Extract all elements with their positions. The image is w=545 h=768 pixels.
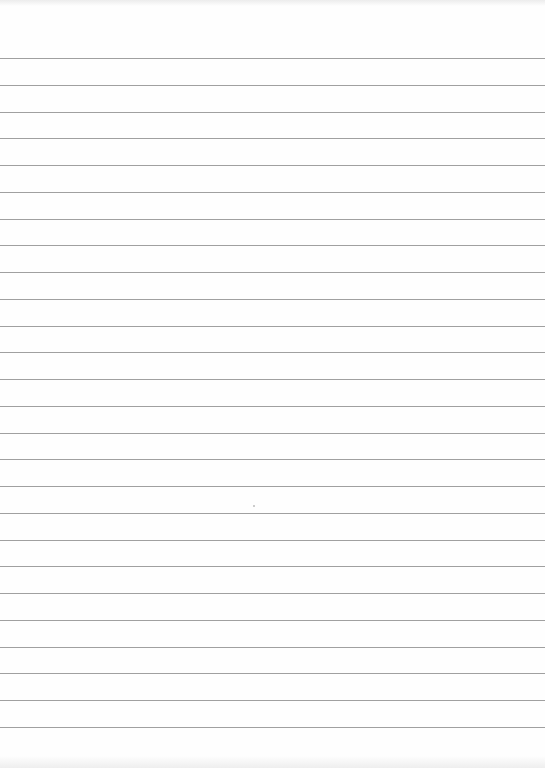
- ruled-line: [0, 406, 545, 407]
- ruled-line: [0, 379, 545, 380]
- paper-bottom-edge: [0, 756, 545, 768]
- ruled-line: [0, 138, 545, 139]
- ruled-line: [0, 513, 545, 514]
- ruled-line: [0, 352, 545, 353]
- ruled-line: [0, 245, 545, 246]
- ruled-line: [0, 593, 545, 594]
- ruled-line: [0, 192, 545, 193]
- ruled-line: [0, 326, 545, 327]
- ruled-line: [0, 673, 545, 674]
- ruled-line: [0, 299, 545, 300]
- ruled-line: [0, 272, 545, 273]
- ruled-line: [0, 566, 545, 567]
- lined-paper-sheet: [0, 0, 545, 768]
- ruled-line: [0, 58, 545, 59]
- ruled-line: [0, 486, 545, 487]
- ruled-line: [0, 433, 545, 434]
- ruled-line: [0, 647, 545, 648]
- ruled-line: [0, 620, 545, 621]
- ruled-line: [0, 165, 545, 166]
- ruled-line: [0, 85, 545, 86]
- ruled-line: [0, 727, 545, 728]
- ruled-line: [0, 459, 545, 460]
- ruled-line: [0, 540, 545, 541]
- paper-speck: [253, 505, 255, 507]
- paper-top-edge: [0, 0, 545, 6]
- ruled-line: [0, 219, 545, 220]
- ruled-line: [0, 700, 545, 701]
- ruled-line: [0, 112, 545, 113]
